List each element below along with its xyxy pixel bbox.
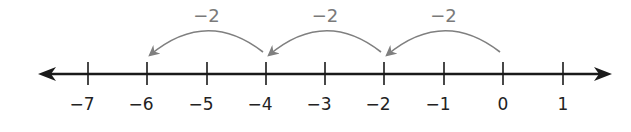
- jump-label: −2: [193, 5, 220, 26]
- jump-label: −2: [312, 5, 339, 26]
- jump-arc: [150, 31, 263, 55]
- tick-label: −2: [365, 94, 390, 114]
- tick-label: −3: [306, 94, 331, 114]
- jump-arc: [269, 31, 381, 55]
- tick-labels: −7−6−5−4−3−2−101: [69, 94, 568, 114]
- tick-label: −1: [425, 94, 450, 114]
- tick-label: −6: [128, 94, 153, 114]
- jump-label: −2: [430, 5, 457, 26]
- tick-label: −7: [69, 94, 94, 114]
- tick-label: 1: [558, 94, 569, 114]
- tick-label: 0: [498, 94, 509, 114]
- tick-label: −4: [247, 94, 272, 114]
- jump-arcs: −2−2−2: [150, 5, 500, 55]
- number-line-diagram: −7−6−5−4−3−2−101 −2−2−2: [0, 0, 631, 132]
- tick-label: −5: [188, 94, 213, 114]
- jump-arc: [387, 31, 500, 55]
